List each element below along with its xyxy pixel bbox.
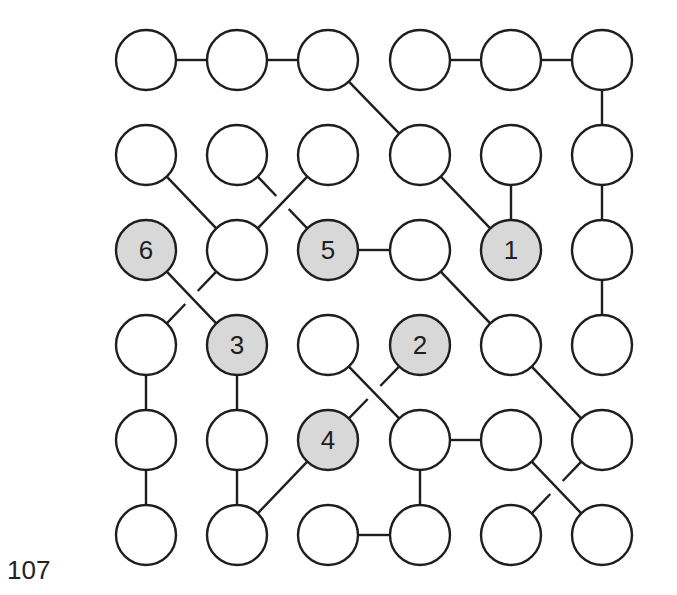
bridge-line	[441, 272, 490, 324]
node-label: 2	[413, 330, 427, 360]
node-circle	[298, 125, 358, 185]
node-circle	[207, 30, 267, 90]
node-circle	[390, 220, 450, 280]
node-circle	[298, 30, 358, 90]
island-node	[572, 410, 632, 470]
island-node	[390, 505, 450, 565]
bridge-line	[532, 367, 581, 419]
bridge-under-segment	[380, 367, 399, 386]
node-circle	[390, 125, 450, 185]
island-node	[572, 30, 632, 90]
node-circle	[390, 410, 450, 470]
island-node	[207, 220, 267, 280]
node-circle	[298, 315, 358, 375]
node-circle	[390, 505, 450, 565]
node-circle	[207, 125, 267, 185]
island-node	[572, 125, 632, 185]
island-node-numbered: 1	[481, 220, 541, 280]
island-node	[207, 125, 267, 185]
island-node	[481, 125, 541, 185]
node-circle	[207, 220, 267, 280]
node-circle	[481, 505, 541, 565]
bridge-under-segment	[167, 304, 186, 323]
node-circle	[207, 410, 267, 470]
node-circle	[116, 505, 176, 565]
island-node	[298, 125, 358, 185]
node-label: 5	[321, 235, 335, 265]
node-circle	[572, 315, 632, 375]
bridge-under-segment	[532, 494, 551, 513]
node-circle	[116, 30, 176, 90]
node-circle	[298, 505, 358, 565]
node-circle	[572, 220, 632, 280]
puzzle-number: 107	[7, 555, 50, 586]
island-node	[298, 315, 358, 375]
node-circle	[481, 125, 541, 185]
island-node	[298, 505, 358, 565]
bridge-line	[258, 462, 307, 514]
edges-layer	[146, 60, 602, 535]
island-node-numbered: 2	[390, 315, 450, 375]
island-node	[116, 410, 176, 470]
island-node	[116, 315, 176, 375]
node-label: 1	[504, 235, 518, 265]
bridge-under-segment	[258, 177, 277, 196]
bridge-under-segment	[289, 209, 308, 228]
puzzle-diagram: 651324	[0, 0, 677, 595]
node-circle	[116, 410, 176, 470]
node-circle	[116, 315, 176, 375]
island-node	[116, 505, 176, 565]
node-circle	[116, 125, 176, 185]
node-circle	[207, 505, 267, 565]
island-node	[207, 505, 267, 565]
island-node	[390, 220, 450, 280]
node-circle	[481, 315, 541, 375]
island-node	[116, 30, 176, 90]
node-label: 6	[139, 235, 153, 265]
bridge-line	[349, 82, 399, 134]
node-circle	[572, 505, 632, 565]
node-circle	[572, 410, 632, 470]
island-node	[572, 315, 632, 375]
node-circle	[572, 125, 632, 185]
island-node	[481, 505, 541, 565]
node-label: 4	[321, 425, 335, 455]
island-node	[116, 125, 176, 185]
node-circle	[481, 410, 541, 470]
island-node	[390, 30, 450, 90]
island-node-numbered: 4	[298, 410, 358, 470]
island-node	[207, 410, 267, 470]
bridge-under-segment	[198, 272, 217, 291]
island-node	[572, 220, 632, 280]
island-node-numbered: 3	[207, 315, 267, 375]
island-node-numbered: 5	[298, 220, 358, 280]
island-node	[298, 30, 358, 90]
bridge-under-segment	[563, 462, 582, 481]
island-node	[390, 125, 450, 185]
island-node	[390, 410, 450, 470]
node-circle	[481, 30, 541, 90]
island-node	[481, 30, 541, 90]
bridge-line	[167, 177, 216, 229]
island-node	[481, 315, 541, 375]
bridge-under-segment	[349, 399, 368, 418]
island-node	[572, 505, 632, 565]
node-label: 3	[230, 330, 244, 360]
node-circle	[390, 30, 450, 90]
island-node	[207, 30, 267, 90]
island-node	[481, 410, 541, 470]
island-node-numbered: 6	[116, 220, 176, 280]
node-circle	[572, 30, 632, 90]
bridge-line	[441, 177, 490, 229]
